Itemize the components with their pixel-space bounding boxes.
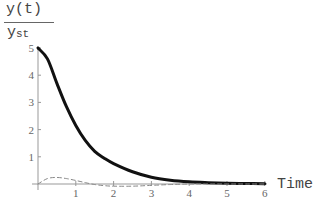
plot-area: 12345612345 <box>0 0 329 207</box>
x-tick-label: 2 <box>111 187 117 199</box>
y-tick-label: 4 <box>29 69 35 81</box>
x-tick-label: 6 <box>262 187 268 199</box>
x-tick-label: 4 <box>186 187 192 199</box>
x-tick-label: 5 <box>224 187 230 199</box>
x-tick-label: 3 <box>149 187 155 199</box>
solid-series-line <box>38 48 265 184</box>
x-tick-label: 1 <box>73 187 79 199</box>
y-tick-label: 5 <box>29 42 35 54</box>
y-tick-label: 1 <box>29 151 35 163</box>
y-tick-label: 2 <box>29 124 35 136</box>
y-tick-label: 3 <box>29 96 35 108</box>
